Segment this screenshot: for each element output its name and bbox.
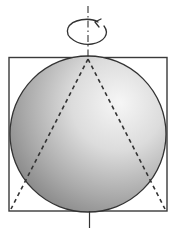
sphere bbox=[10, 56, 166, 212]
diagram-canvas bbox=[0, 0, 181, 235]
sphere-cylinder-cone-diagram bbox=[0, 0, 181, 235]
rotation-arrow-icon bbox=[67, 19, 106, 44]
